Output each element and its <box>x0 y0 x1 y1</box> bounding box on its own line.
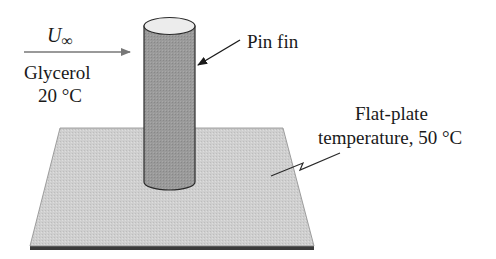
velocity-subscript: ∞ <box>61 32 72 49</box>
plate-label-line2: temperature, 50 °C <box>318 128 462 147</box>
fin-body <box>144 26 195 190</box>
fin-top <box>144 18 195 35</box>
diagram-canvas: U∞ Glycerol 20 °C Pin fin Flat-plate tem… <box>0 0 496 259</box>
fluid-label: Glycerol <box>24 63 90 82</box>
velocity-label: U∞ <box>47 25 73 49</box>
velocity-symbol: U <box>47 24 61 46</box>
pin-fin <box>144 18 195 191</box>
pin-fin-label: Pin fin <box>247 32 298 51</box>
fluid-temperature-label: 20 °C <box>38 86 82 105</box>
pin-fin-leader-arrow <box>198 40 240 65</box>
plate-label-line1: Flat-plate <box>355 104 428 123</box>
plate-edge <box>30 246 314 250</box>
